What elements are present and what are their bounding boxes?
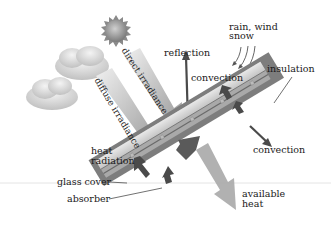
label-insulation: insulation (267, 64, 315, 74)
label-glass-cover: glass cover (57, 177, 111, 187)
label-radiation: radiation (91, 156, 135, 166)
label-available-heat: heat (242, 199, 263, 209)
label-absorber: absorber (67, 194, 110, 204)
label-snow: snow (229, 31, 254, 41)
absorber-leader (109, 188, 162, 199)
label-convection-right: convection (253, 145, 305, 155)
label-reflection: reflection (164, 48, 210, 58)
inner-convection-arrow (162, 166, 174, 184)
sun-icon (101, 15, 131, 47)
label-convection-top: convection (191, 73, 243, 83)
cloud-icon-lower (26, 77, 78, 110)
available-heat-arrow (196, 143, 236, 210)
solar-collector-diagram (0, 0, 331, 239)
